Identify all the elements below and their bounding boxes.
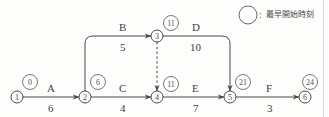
activity-duration-d: 10 (190, 42, 201, 53)
activity-duration-e: 7 (193, 103, 199, 114)
activity-label-a: A (47, 83, 55, 94)
est-value-node-3: 11 (164, 20, 178, 28)
activity-label-c: C (119, 83, 126, 94)
activity-label-d: D (192, 22, 200, 33)
activity-duration-c: 4 (120, 103, 126, 114)
activity-duration-b: 5 (120, 42, 126, 53)
pert-diagram-canvas: 1 2 3 4 5 6 0 6 11 11 21 24 A B C D E F … (0, 0, 329, 117)
activity-duration-f: 3 (267, 103, 273, 114)
event-node-label-6: 6 (299, 94, 311, 102)
event-node-label-2: 2 (79, 94, 91, 102)
event-node-label-1: 1 (11, 94, 23, 102)
activity-label-e: E (192, 83, 199, 94)
est-value-node-1: 0 (23, 79, 37, 87)
legend-circle-outline-icon (239, 6, 257, 24)
event-node-label-4: 4 (151, 94, 163, 102)
legend-separator: : (259, 12, 262, 20)
est-value-node-2: 6 (91, 79, 105, 87)
est-value-node-4: 11 (164, 81, 178, 89)
activity-label-f: F (266, 83, 272, 94)
activity-label-b: B (119, 22, 126, 33)
est-value-node-6: 24 (303, 79, 317, 87)
event-node-label-5: 5 (224, 94, 236, 102)
event-node-label-3: 3 (151, 33, 163, 41)
est-value-node-5: 21 (236, 79, 250, 87)
legend-label: 最早開始時刻 (266, 11, 314, 19)
activity-duration-a: 6 (48, 103, 54, 114)
